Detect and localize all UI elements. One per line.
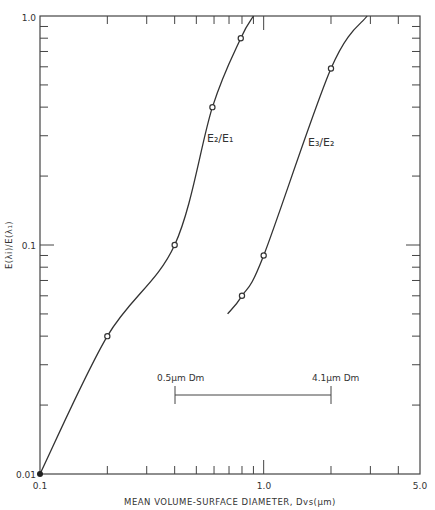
x-axis-title: MEAN VOLUME-SURFACE DIAMETER, Dvs(μm) (124, 497, 336, 507)
origin-point (37, 471, 43, 477)
y-tick-label-1: 1.0 (22, 13, 37, 23)
data-markers (105, 36, 334, 339)
data-point-marker (210, 105, 215, 110)
x-tick-label-5: 5.0 (413, 481, 428, 491)
range-bar (175, 386, 331, 404)
series-label-e2-e1: E₂/E₁ (207, 132, 233, 145)
data-point-marker (261, 253, 266, 258)
x-tick-label-0.1: 0.1 (33, 481, 47, 491)
data-point-marker (239, 293, 244, 298)
data-point-marker (105, 334, 110, 339)
y-axis-title: E(λi)/E(λ₁) (4, 221, 14, 269)
data-point-marker (238, 36, 243, 41)
y-tick-label-0.01: 0.01 (16, 470, 36, 480)
series-e2-e1-curve (40, 16, 253, 474)
annotation-0.5um: 0.5μm Dm (157, 373, 204, 383)
series-label-e3-e2: E₃/E₂ (308, 136, 334, 149)
data-point-marker (172, 242, 177, 247)
axis-ticks (40, 16, 420, 474)
y-tick-label-0.1: 0.1 (22, 241, 36, 251)
annotation-4.1um: 4.1μm Dm (312, 373, 359, 383)
series-e3-e2-curve (228, 16, 367, 314)
data-point-marker (328, 66, 333, 71)
x-tick-label-1: 1.0 (257, 481, 272, 491)
chart-canvas: 1.0 0.1 0.01 0.1 1.0 5.0 MEAN VOLUME-SUR… (0, 0, 435, 510)
plot-frame (40, 16, 420, 474)
